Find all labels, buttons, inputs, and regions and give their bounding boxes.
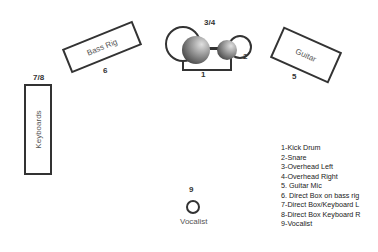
vocalist-label: Vocalist <box>180 217 208 226</box>
legend-item: 9-Vocalist <box>281 219 361 229</box>
snare-number: 2 <box>243 52 247 61</box>
legend-item: 4-Overhead Right <box>281 172 361 182</box>
legend-item: 3-Overhead Left <box>281 162 361 172</box>
overhead-number: 3/4 <box>204 18 215 27</box>
kick-number: 1 <box>201 70 205 79</box>
legend-item: 6. Direct Box on bass rig <box>281 191 361 201</box>
vocalist-mic <box>187 201 199 213</box>
keyboards-number: 7/8 <box>33 73 44 82</box>
keyboards-label: Keyboards <box>34 110 43 148</box>
vocalist-number: 9 <box>189 185 193 194</box>
snare-drum <box>217 40 237 60</box>
keyboards: Keyboards <box>24 84 52 175</box>
legend-item: 2-Snare <box>281 153 361 163</box>
overhead-drum <box>182 36 210 64</box>
legend-item: 8-Direct Box Keyboard R <box>281 210 361 220</box>
guitar-number: 5 <box>292 72 296 81</box>
legend-item: 5. Guitar Mic <box>281 181 361 191</box>
legend: 1-Kick Drum 2-Snare 3-Overhead Left 4-Ov… <box>281 143 361 229</box>
legend-item: 1-Kick Drum <box>281 143 361 153</box>
legend-item: 7-Direct Box/Keyboard L <box>281 200 361 210</box>
bass-rig-number: 6 <box>103 66 107 75</box>
guitar-label: Guitar <box>294 46 318 63</box>
bass-rig-label: Bass Rig <box>85 37 118 57</box>
